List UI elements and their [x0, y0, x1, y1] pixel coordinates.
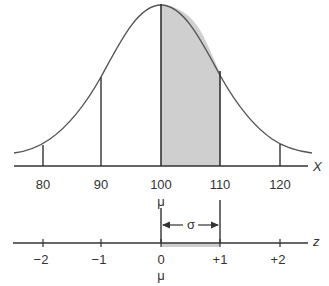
- arrowhead-left-icon: [162, 222, 170, 229]
- z-tick-label: 0: [157, 252, 164, 267]
- x-tick-label: 80: [36, 177, 50, 192]
- x-tick-label: 90: [94, 177, 108, 192]
- z-tick-label: +2: [271, 252, 286, 267]
- x-mean-label: μ: [157, 194, 165, 209]
- x-tick-label: 100: [150, 177, 172, 192]
- sigma-label: σ: [187, 217, 195, 232]
- z-mean-label: μ: [157, 268, 165, 283]
- shaded-area: [161, 5, 220, 166]
- z-tick-label: +1: [213, 252, 228, 267]
- x-axis-label: X: [312, 159, 323, 174]
- x-tick-label: 120: [269, 177, 291, 192]
- z-axis-label: z: [312, 234, 320, 249]
- z-tick-label: −1: [92, 252, 107, 267]
- z-tick-label: −2: [34, 252, 49, 267]
- normal-distribution-diagram: X 80 90 100 110 120 μ σ z −2 −1 0 +1 +2 …: [0, 0, 329, 286]
- x-tick-label: 110: [210, 177, 231, 192]
- arrowhead-right-icon: [211, 222, 219, 229]
